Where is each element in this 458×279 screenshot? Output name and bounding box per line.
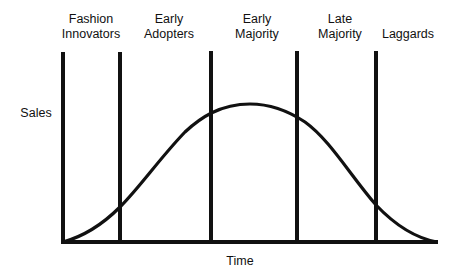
label-line: Majority bbox=[318, 27, 362, 42]
label-line: Adopters bbox=[144, 27, 194, 42]
segment-label-early-majority: Early Majority bbox=[235, 12, 279, 42]
y-axis-label: Sales bbox=[20, 106, 51, 121]
label-line: Laggards bbox=[382, 27, 434, 42]
segment-label-late-majority: Late Majority bbox=[318, 12, 362, 42]
segment-label-laggards: Laggards bbox=[382, 27, 434, 42]
label-line: Fashion bbox=[62, 12, 120, 27]
label-line: Majority bbox=[235, 27, 279, 42]
label-line: Early bbox=[235, 12, 279, 27]
label-line: Early bbox=[144, 12, 194, 27]
label-line: Late bbox=[318, 12, 362, 27]
label-line: Innovators bbox=[62, 27, 120, 42]
segment-label-early-adopters: Early Adopters bbox=[144, 12, 194, 42]
x-axis-label: Time bbox=[226, 254, 253, 269]
segment-label-fashion-innovators: Fashion Innovators bbox=[62, 12, 120, 42]
